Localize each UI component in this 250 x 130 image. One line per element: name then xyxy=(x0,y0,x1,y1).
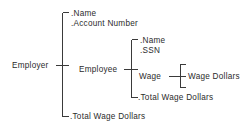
node-employee-ssn: .SSN xyxy=(140,46,160,57)
node-employee: Employee xyxy=(79,65,117,76)
node-employer-account-number: .Account Number xyxy=(71,19,138,30)
bracket-level-2 xyxy=(124,40,138,99)
bracket-tree-diagram: Employer .Name .Account Number Employee … xyxy=(0,0,250,130)
node-employee-name: .Name xyxy=(140,36,165,47)
node-employer-name: .Name xyxy=(71,9,96,20)
node-employer: Employer xyxy=(12,61,49,72)
node-wage: Wage xyxy=(139,72,161,83)
node-employee-total-wage-dollars: .Total Wage Dollars xyxy=(138,93,213,104)
bracket-level-3 xyxy=(169,64,186,88)
node-wage-dollars: Wage Dollars xyxy=(188,72,240,83)
bracket-level-1 xyxy=(56,13,69,118)
node-employer-total-wage-dollars: .Total Wage Dollars xyxy=(70,112,145,123)
